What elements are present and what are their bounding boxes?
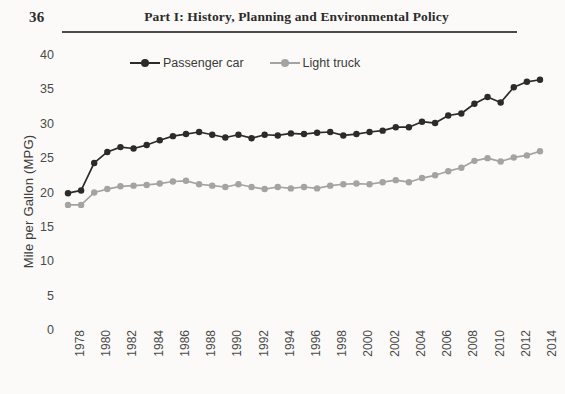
data-point-marker xyxy=(275,184,281,190)
data-point-marker xyxy=(143,142,149,148)
data-point-marker xyxy=(157,180,163,186)
data-point-marker xyxy=(104,186,110,192)
legend-label: Light truck xyxy=(303,56,361,70)
y-axis-tick-label: 35 xyxy=(20,82,54,96)
data-point-marker xyxy=(275,132,281,138)
data-point-marker xyxy=(288,130,294,136)
data-point-marker xyxy=(130,182,136,188)
data-point-marker xyxy=(393,124,399,130)
y-axis-ticks: 0510152025303540 xyxy=(18,44,54,394)
data-point-marker xyxy=(301,131,307,137)
data-point-marker xyxy=(78,187,84,193)
series-line xyxy=(68,151,540,205)
data-point-marker xyxy=(209,182,215,188)
legend-item-passenger-car: Passenger car xyxy=(130,56,244,70)
data-point-marker xyxy=(524,152,530,158)
data-point-marker xyxy=(248,135,254,141)
series-passenger-car xyxy=(65,77,543,197)
y-axis-tick-label: 10 xyxy=(20,254,54,268)
data-point-marker xyxy=(143,182,149,188)
data-point-marker xyxy=(379,127,385,133)
data-point-marker xyxy=(327,129,333,135)
data-point-marker xyxy=(222,184,228,190)
data-point-marker xyxy=(484,94,490,100)
data-point-marker xyxy=(406,179,412,185)
data-point-marker xyxy=(379,179,385,185)
x-axis-tick-label: 1998 xyxy=(335,330,349,357)
data-point-marker xyxy=(117,144,123,150)
x-axis-tick-label: 2006 xyxy=(440,330,454,357)
data-point-marker xyxy=(524,79,530,85)
x-axis-tick-label: 1990 xyxy=(230,330,244,357)
data-point-marker xyxy=(261,132,267,138)
x-axis-tick-label: 2012 xyxy=(519,330,533,357)
x-axis-tick-label: 1988 xyxy=(204,330,218,357)
data-point-marker xyxy=(419,175,425,181)
data-point-marker xyxy=(432,120,438,126)
data-point-marker xyxy=(353,131,359,137)
fuel-economy-chart: Mile per Gallon (MPG) 0510152025303540 P… xyxy=(0,44,565,394)
x-axis-tick-label: 2008 xyxy=(466,330,480,357)
y-axis-tick-label: 40 xyxy=(20,48,54,62)
y-axis-tick-label: 25 xyxy=(20,151,54,165)
data-point-marker xyxy=(235,181,241,187)
data-point-marker xyxy=(91,189,97,195)
legend-item-light-truck: Light truck xyxy=(270,56,361,70)
data-point-marker xyxy=(458,165,464,171)
data-point-marker xyxy=(130,145,136,151)
x-axis-tick-label: 2000 xyxy=(361,330,375,357)
data-point-marker xyxy=(445,168,451,174)
data-point-marker xyxy=(340,132,346,138)
data-point-marker xyxy=(327,182,333,188)
x-axis-ticks: 1978198019821984198619881990199219941996… xyxy=(58,330,558,394)
chart-legend: Passenger car Light truck xyxy=(130,56,360,70)
data-point-marker xyxy=(366,129,372,135)
data-point-marker xyxy=(353,180,359,186)
x-axis-tick-label: 1996 xyxy=(309,330,323,357)
x-axis-tick-label: 2010 xyxy=(493,330,507,357)
data-point-marker xyxy=(484,155,490,161)
y-axis-tick-label: 20 xyxy=(20,186,54,200)
data-point-marker xyxy=(183,131,189,137)
page-header: 36 Part I: History, Planning and Environ… xyxy=(0,0,565,46)
legend-marker-icon xyxy=(130,57,160,69)
x-axis-tick-label: 1984 xyxy=(152,330,166,357)
series-light-truck xyxy=(65,148,543,208)
x-axis-tick-label: 1982 xyxy=(125,330,139,357)
y-axis-tick-label: 30 xyxy=(20,117,54,131)
data-point-marker xyxy=(471,158,477,164)
x-axis-tick-label: 1994 xyxy=(283,330,297,357)
data-point-marker xyxy=(511,84,517,90)
running-head: Part I: History, Planning and Environmen… xyxy=(0,9,565,25)
data-point-marker xyxy=(366,181,372,187)
data-point-marker xyxy=(288,185,294,191)
data-point-marker xyxy=(301,184,307,190)
x-axis-tick-label: 1986 xyxy=(178,330,192,357)
y-axis-tick-label: 5 xyxy=(20,289,54,303)
legend-label: Passenger car xyxy=(163,56,244,70)
data-point-marker xyxy=(314,185,320,191)
data-point-marker xyxy=(209,132,215,138)
data-point-marker xyxy=(471,101,477,107)
data-point-marker xyxy=(65,202,71,208)
x-axis-tick-label: 2014 xyxy=(545,330,559,357)
header-divider xyxy=(62,31,517,33)
data-point-marker xyxy=(537,77,543,83)
data-point-marker xyxy=(235,132,241,138)
data-point-marker xyxy=(196,129,202,135)
data-point-marker xyxy=(104,149,110,155)
x-axis-tick-label: 1980 xyxy=(99,330,113,357)
data-point-marker xyxy=(432,172,438,178)
data-point-marker xyxy=(445,112,451,118)
data-point-marker xyxy=(222,134,228,140)
x-axis-tick-label: 1992 xyxy=(257,330,271,357)
data-point-marker xyxy=(78,202,84,208)
data-point-marker xyxy=(511,154,517,160)
data-point-marker xyxy=(170,178,176,184)
data-point-marker xyxy=(419,118,425,124)
data-point-marker xyxy=(340,181,346,187)
data-point-marker xyxy=(91,160,97,166)
x-axis-tick-label: 2004 xyxy=(414,330,428,357)
data-point-marker xyxy=(497,158,503,164)
data-point-marker xyxy=(65,190,71,196)
